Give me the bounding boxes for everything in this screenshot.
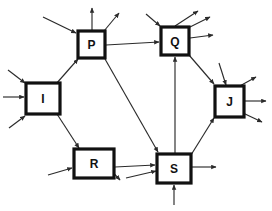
node-p[interactable]: P: [78, 31, 105, 58]
edge-i-to-r: [57, 114, 79, 148]
edge-i-to-p: [56, 59, 78, 84]
external-arrow-q-out-4: [175, 11, 198, 26]
external-arrow-j-in-10: [219, 63, 226, 85]
edge-p-to-q: [106, 42, 159, 45]
node-label-p: P: [87, 38, 95, 52]
node-s[interactable]: S: [157, 154, 191, 183]
external-arrow-q-in-3: [146, 14, 160, 26]
external-arrow-p-out-2: [104, 13, 119, 31]
edge-s-to-j: [191, 118, 214, 155]
external-arrow-r-in-14: [48, 168, 72, 175]
node-label-q: Q: [170, 35, 179, 49]
edge-p-to-s: [105, 59, 158, 152]
external-arrow-i-in-7: [8, 70, 25, 83]
edge-q-to-j: [189, 55, 214, 84]
external-arrow-q-out-6: [190, 35, 213, 38]
node-q[interactable]: Q: [161, 27, 189, 55]
external-arrow-j-out-13: [243, 113, 262, 122]
edge-r-to-s: [115, 165, 155, 167]
nodes-layer: PQIJRS: [26, 27, 244, 183]
node-i[interactable]: I: [26, 83, 60, 114]
node-label-r: R: [90, 157, 99, 171]
graph-svg: PQIJRS: [0, 0, 272, 211]
node-j[interactable]: J: [215, 86, 244, 117]
external-arrow-i-in-9: [9, 116, 25, 128]
external-arrow-s-in-16: [126, 171, 156, 178]
node-label-i: I: [41, 92, 44, 106]
external-arrow-p-in-0: [43, 17, 76, 33]
diagram-canvas: PQIJRS: [0, 0, 272, 211]
node-label-s: S: [170, 162, 178, 176]
node-label-j: J: [226, 95, 233, 109]
node-r[interactable]: R: [74, 149, 114, 178]
